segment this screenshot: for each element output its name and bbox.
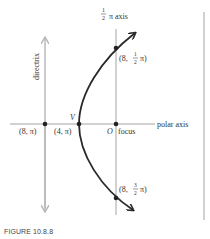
parabola-curve-lower bbox=[79, 124, 133, 210]
point-lower-label-open: (8, bbox=[119, 185, 128, 194]
point-focus bbox=[114, 122, 119, 127]
point-lower-label-denominator: 2 bbox=[134, 190, 137, 196]
directrix-label: directrix bbox=[32, 53, 41, 80]
point-upper bbox=[114, 46, 119, 51]
polar-axis-label: polar axis bbox=[157, 120, 188, 129]
point-lower bbox=[114, 196, 119, 201]
point-upper-label-close: π) bbox=[140, 54, 147, 63]
point-directrix-intersection bbox=[43, 122, 48, 127]
point-upper-label-numerator: 1 bbox=[134, 51, 137, 57]
parabola-curve bbox=[79, 33, 135, 124]
origin-label: O bbox=[107, 127, 113, 136]
parabola-diagram: 1 2 π axis directrix polar axis V O focu… bbox=[0, 0, 210, 239]
point-upper-label-open: (8, bbox=[119, 54, 128, 63]
point-lower-label-numerator: 3 bbox=[134, 182, 137, 188]
point-vertex bbox=[77, 122, 82, 127]
figure-caption: FIGURE 10.8.8 bbox=[4, 228, 53, 235]
half-pi-axis-numerator: 1 bbox=[102, 7, 105, 13]
point-upper-label-denominator: 2 bbox=[134, 59, 137, 65]
focus-label: focus bbox=[118, 127, 135, 136]
point-lower-label-close: π) bbox=[140, 185, 147, 194]
vertex-label: V bbox=[70, 113, 76, 122]
half-pi-axis-label: π axis bbox=[109, 12, 128, 21]
point-vertex-label: (4, π) bbox=[54, 127, 72, 136]
half-pi-axis-denominator: 2 bbox=[102, 15, 105, 21]
point-directrix-label: (8, π) bbox=[19, 127, 37, 136]
